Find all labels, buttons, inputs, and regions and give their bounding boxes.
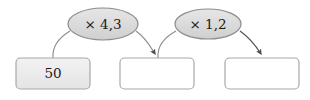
connector-operator2-to-box3 bbox=[240, 31, 261, 54]
value-box-1-label: 50 bbox=[44, 65, 61, 81]
diagram-svg: 50 × 4,3 × 1,2 bbox=[0, 0, 310, 100]
operator-ellipse-2-label: × 1,2 bbox=[189, 16, 226, 32]
diagram-canvas: 50 × 4,3 × 1,2 bbox=[0, 0, 310, 100]
value-box-3-shape bbox=[225, 58, 299, 89]
value-box-2[interactable] bbox=[120, 58, 194, 89]
value-box-3[interactable] bbox=[225, 58, 299, 89]
connector-operator1-to-box2 bbox=[136, 31, 155, 54]
operator-ellipse-1[interactable]: × 4,3 bbox=[68, 8, 138, 40]
operator-ellipse-2[interactable]: × 1,2 bbox=[175, 9, 241, 39]
operator-ellipse-1-label: × 4,3 bbox=[84, 16, 121, 32]
connector-box1-to-operator1 bbox=[53, 31, 70, 58]
connector-box2-to-operator2 bbox=[158, 31, 176, 58]
value-box-2-shape bbox=[120, 58, 194, 89]
value-box-1[interactable]: 50 bbox=[16, 58, 90, 89]
